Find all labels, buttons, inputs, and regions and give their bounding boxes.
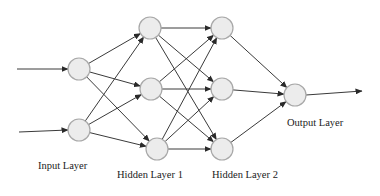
connection-edge (89, 34, 141, 64)
hidden-layer-1-label: Hidden Layer 1 (117, 169, 183, 180)
output-layer-label: Output Layer (287, 117, 343, 128)
connection-edge (231, 102, 286, 143)
connection-edge (165, 96, 214, 141)
output-node-1 (284, 84, 306, 106)
input-layer-label: Input Layer (38, 160, 87, 171)
connection-edge (90, 133, 147, 147)
connection-edge (159, 96, 213, 142)
hidden1-node-3 (146, 138, 168, 160)
hidden-layer-2-label: Hidden Layer 2 (212, 169, 278, 180)
input-node-2 (68, 119, 90, 141)
hidden2-node-2 (211, 78, 233, 100)
hidden1-node-2 (140, 78, 162, 100)
output-arrow (306, 91, 362, 95)
connection-edge (233, 90, 284, 94)
connection-edge (89, 94, 142, 124)
hidden2-node-1 (211, 17, 233, 39)
connection-edge (85, 37, 143, 121)
connection-edge (230, 35, 287, 87)
hidden1-node-1 (139, 17, 161, 39)
input-arrow (19, 130, 68, 132)
input-node-1 (68, 58, 90, 80)
hidden2-node-3 (211, 138, 233, 160)
